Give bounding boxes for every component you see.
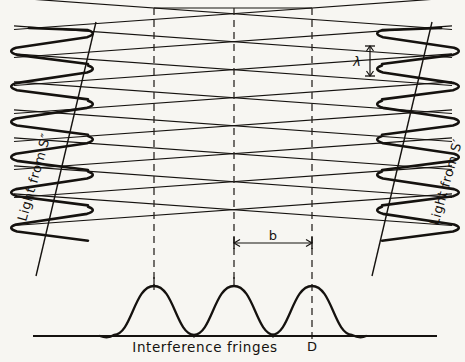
interference-fringes-figure: λ b D Interference fringes Light from S″…: [0, 0, 465, 362]
figure-caption: Interference fringes: [132, 339, 277, 355]
wavelength-label: λ: [352, 54, 361, 69]
fringe-spacing-label: b: [269, 228, 277, 243]
screen-point-label: D: [307, 339, 317, 354]
diagram-canvas: λ b D Interference fringes Light from S″…: [0, 0, 465, 362]
